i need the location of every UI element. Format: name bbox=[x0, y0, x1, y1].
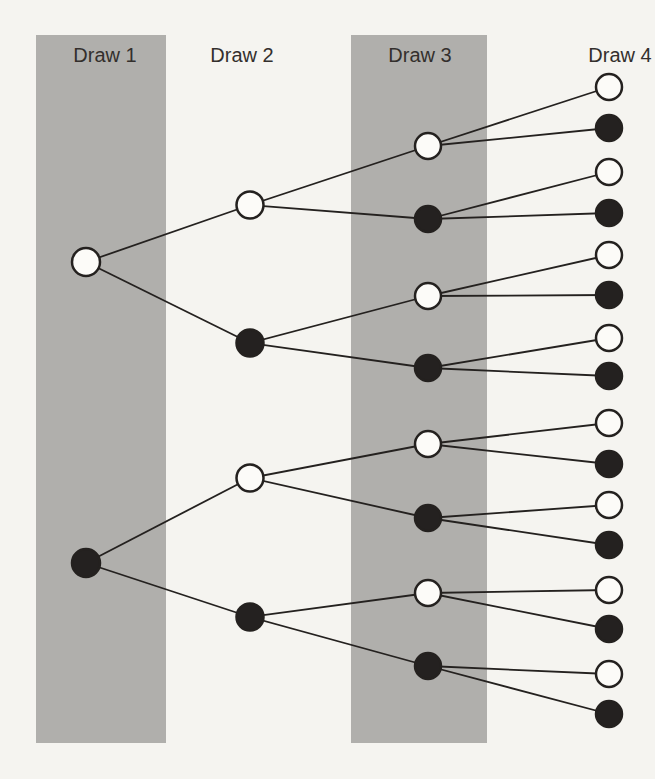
draw4-node-white-c3-14 bbox=[596, 661, 622, 687]
draw4-node-white-c3-8 bbox=[596, 410, 622, 436]
draw1-band bbox=[36, 35, 166, 743]
draw4-node-black-c3-7 bbox=[596, 363, 622, 389]
draw4-node-white-c3-0 bbox=[596, 74, 622, 100]
draw4-node-black-c3-1 bbox=[596, 115, 622, 141]
draw2-node-black-c1-3 bbox=[237, 604, 264, 631]
draw1-node-black-c0-1 bbox=[72, 549, 100, 577]
draw1-label: Draw 1 bbox=[73, 44, 136, 66]
draw4-label: Draw 4 bbox=[588, 44, 651, 66]
draw3-node-black-c2-5 bbox=[415, 505, 441, 531]
draw4-node-white-c3-6 bbox=[596, 325, 622, 351]
draw4-node-black-c3-3 bbox=[596, 200, 622, 226]
draw4-node-black-c3-11 bbox=[596, 532, 622, 558]
draw2-node-black-c1-1 bbox=[237, 330, 264, 357]
draw4-node-white-c3-4 bbox=[596, 242, 622, 268]
draw3-node-white-c2-6 bbox=[415, 580, 441, 606]
draw1-node-white-c0-0 bbox=[72, 248, 100, 276]
draw3-node-black-c2-1 bbox=[415, 206, 441, 232]
draw4-node-black-c3-13 bbox=[596, 616, 622, 642]
draw4-node-black-c3-5 bbox=[596, 282, 622, 308]
draw2-label: Draw 2 bbox=[210, 44, 273, 66]
tree-diagram-figure: Draw 1Draw 2Draw 3Draw 4 bbox=[0, 0, 655, 779]
draw2-node-white-c1-0 bbox=[237, 192, 264, 219]
draw2-node-white-c1-2 bbox=[237, 465, 264, 492]
draw3-node-black-c2-7 bbox=[415, 653, 441, 679]
draw4-node-white-c3-2 bbox=[596, 159, 622, 185]
tree-edge-c2-2-c3-5 bbox=[428, 295, 609, 296]
draw3-node-black-c2-3 bbox=[415, 355, 441, 381]
draw4-node-white-c3-12 bbox=[596, 577, 622, 603]
probability-tree-svg: Draw 1Draw 2Draw 3Draw 4 bbox=[0, 0, 655, 779]
draw3-node-white-c2-4 bbox=[415, 431, 441, 457]
draw4-node-black-c3-9 bbox=[596, 451, 622, 477]
draw4-node-white-c3-10 bbox=[596, 492, 622, 518]
draw4-node-black-c3-15 bbox=[596, 701, 622, 727]
draw3-node-white-c2-2 bbox=[415, 283, 441, 309]
draw3-node-white-c2-0 bbox=[415, 133, 441, 159]
draw3-label: Draw 3 bbox=[388, 44, 451, 66]
